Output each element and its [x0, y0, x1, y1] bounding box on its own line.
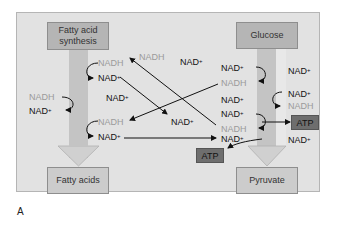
nadh-label: NADH: [139, 52, 165, 62]
glucose-label: Glucose: [250, 30, 283, 41]
nadh-label: NADH: [288, 101, 314, 111]
nadh-label: NADH: [221, 124, 247, 134]
nadh-label: NADH: [98, 58, 124, 68]
nad-plus-label: NAD+: [221, 109, 244, 119]
fatty-acids-box: Fatty acids: [47, 167, 109, 194]
nad-plus-label: NAD+: [180, 57, 203, 67]
fatty-acids-label: Fatty acids: [56, 175, 100, 186]
nad-plus-label: NAD+: [29, 106, 52, 116]
nad-plus-label: NAD+: [106, 93, 129, 103]
fatty-acid-synthesis-box: Fatty acid synthesis: [47, 22, 109, 50]
nad-plus-label: NAD+: [98, 73, 121, 83]
pyruvate-label: Pyruvate: [249, 175, 285, 186]
nad-plus-label: NAD+: [221, 134, 244, 144]
nad-plus-label: NAD+: [98, 132, 121, 142]
nadh-label: NADH: [98, 117, 124, 127]
atp-box-center: ATP: [196, 148, 224, 163]
nad-plus-label: NAD+: [221, 95, 244, 105]
pyruvate-box: Pyruvate: [236, 167, 298, 194]
nad-plus-label: NAD+: [288, 66, 311, 76]
nadh-label: NADH: [221, 78, 247, 88]
atp-label: ATP: [297, 118, 314, 128]
nad-plus-label: NAD+: [288, 89, 311, 99]
nad-plus-label: NAD+: [171, 117, 194, 127]
fatty-acid-synthesis-line1: Fatty acid: [58, 25, 97, 36]
glucose-box: Glucose: [236, 22, 298, 49]
atp-label: ATP: [202, 151, 219, 161]
fatty-acid-synthesis-line2: synthesis: [59, 36, 97, 47]
nad-plus-label: NAD+: [288, 135, 311, 145]
atp-box-right: ATP: [291, 115, 319, 130]
nadh-label: NADH: [29, 92, 55, 102]
nad-plus-label: NAD+: [221, 63, 244, 73]
figure-caption: A: [17, 206, 24, 217]
